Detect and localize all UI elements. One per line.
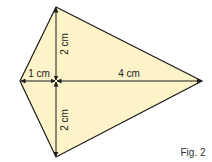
bottom-segment-label: 2 cm <box>59 109 70 131</box>
kite-shape <box>20 7 202 157</box>
left-segment-label: 1 cm <box>28 68 50 79</box>
right-segment-label: 4 cm <box>118 68 140 79</box>
figure-caption: Fig. 2 <box>180 147 205 158</box>
top-segment-label: 2 cm <box>59 33 70 55</box>
kite-diagram: 2 cm 2 cm 1 cm 4 cm Fig. 2 <box>0 0 212 162</box>
